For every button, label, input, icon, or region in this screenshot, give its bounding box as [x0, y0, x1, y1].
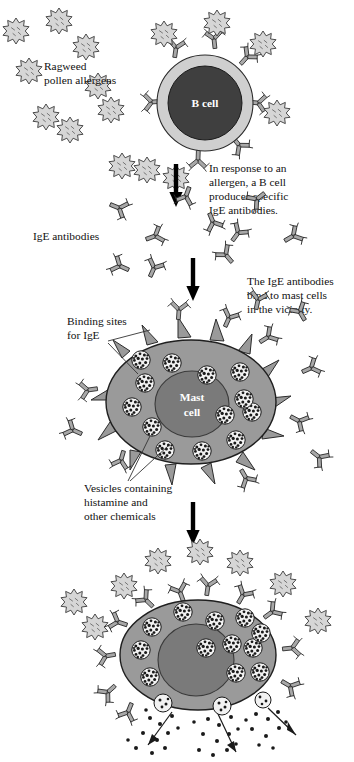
ige-caption-line1: The IgE antibodies: [247, 275, 334, 287]
vesicle: [123, 398, 141, 416]
bcell-label: B cell: [192, 97, 219, 109]
vesicles-label-line3: other chemicals: [84, 510, 156, 522]
mastcell-label-line1: Mast: [180, 391, 205, 403]
vesicle: [251, 663, 269, 681]
vesicle: [132, 641, 150, 659]
vesicle: [132, 351, 150, 369]
bcell-caption-line2: allergen, a B cell: [209, 176, 286, 188]
mastcell-label-line2: cell: [184, 406, 200, 418]
vesicle: [156, 441, 174, 459]
vesicle: [143, 618, 161, 636]
vesicle: [223, 635, 241, 653]
vesicle: [216, 406, 234, 424]
vesicle: [252, 624, 270, 642]
binding-sites-label-line1: Binding sites: [67, 315, 127, 327]
releasing-vesicle: [213, 697, 231, 715]
mastcell-nucleus: [155, 371, 229, 437]
vesicle: [236, 609, 254, 627]
diagram-canvas: B cell Ragweed pollen allergens In respo…: [0, 0, 354, 762]
vesicle: [231, 363, 249, 381]
releasing-vesicle: [255, 692, 271, 708]
ige-antibodies-label: IgE antibodies: [33, 230, 100, 242]
releasing-vesicle: [154, 694, 172, 712]
ragweed-label-line1: Ragweed: [44, 60, 87, 72]
vesicles-label-line1: Vesicles containing: [84, 482, 173, 494]
bcell-caption-line4: IgE antibodies.: [209, 204, 278, 216]
vesicle: [197, 639, 215, 657]
vesicle: [136, 374, 154, 392]
vesicle: [174, 603, 192, 621]
vesicles-label-line2: histamine and: [84, 496, 148, 508]
vesicle: [227, 431, 245, 449]
bcell-caption-line1: In response to an: [209, 162, 287, 174]
vesicle: [235, 390, 253, 408]
vesicle: [198, 366, 216, 384]
vesicle: [206, 612, 224, 630]
ragweed-label-line2: pollen allergens: [44, 74, 117, 86]
vesicle: [193, 442, 211, 460]
vesicle: [141, 668, 159, 686]
vesicle: [227, 664, 245, 682]
binding-sites-label-line2: for IgE: [67, 329, 100, 341]
vesicle: [143, 418, 161, 436]
degranulating-cell-nucleus: [158, 624, 234, 696]
vesicle: [163, 354, 181, 372]
allergy-diagram-figure: B cell Ragweed pollen allergens In respo…: [0, 0, 354, 762]
